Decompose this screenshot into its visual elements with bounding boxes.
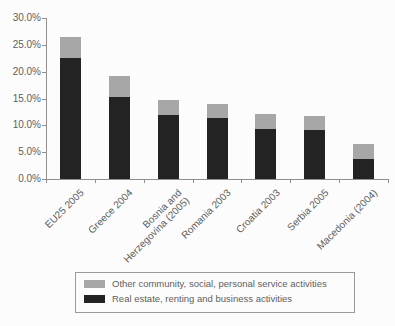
x-axis-tick [339, 179, 340, 183]
x-axis-tick [144, 179, 145, 183]
legend-label-other-community: Other community, social, personal servic… [112, 278, 327, 290]
legend-item-other-community: Other community, social, personal servic… [84, 278, 354, 290]
bar-segment-real-estate [207, 118, 228, 179]
x-axis-tick [290, 179, 291, 183]
x-axis-category-label: EU25 2005 [43, 187, 86, 230]
bar-segment-other-community [60, 37, 81, 58]
y-axis-line [46, 18, 47, 179]
y-axis-tick-label: 15.0% [0, 93, 41, 105]
bar-segment-other-community [109, 76, 130, 97]
bar-segment-real-estate [304, 130, 325, 179]
y-axis-tick-label: 0.0% [0, 173, 41, 185]
bar-segment-real-estate [158, 115, 179, 179]
legend-swatch-other-community-icon [84, 280, 105, 288]
x-axis-tick [388, 179, 389, 183]
x-axis-line [46, 179, 389, 180]
bar-segment-other-community [255, 114, 276, 129]
x-axis-tick [193, 179, 194, 183]
x-axis-category-label: Serbia 2005 [285, 187, 331, 233]
x-axis-category-label: Romania 2003 [179, 187, 233, 241]
y-axis-tick-label: 10.0% [0, 119, 41, 131]
x-axis-tick [241, 179, 242, 183]
bar-segment-other-community [304, 116, 325, 130]
bar-segment-real-estate [353, 159, 374, 179]
legend-item-real-estate: Real estate, renting and business activi… [84, 293, 354, 305]
stacked-bar-chart-figure: 0.0%5.0%10.0%15.0%20.0%25.0%30.0%EU25 20… [0, 0, 395, 326]
x-axis-category-label: Greece 2004 [86, 187, 135, 236]
legend: Other community, social, personal servic… [75, 272, 355, 313]
bar-segment-other-community [353, 144, 374, 159]
bar-segment-other-community [158, 100, 179, 115]
y-axis-tick-label: 5.0% [0, 146, 41, 158]
bar-segment-real-estate [60, 58, 81, 179]
x-axis-tick [95, 179, 96, 183]
y-axis-tick-label: 20.0% [0, 66, 41, 78]
legend-swatch-real-estate-icon [84, 295, 105, 303]
x-axis-category-label: Croatia 2003 [233, 187, 281, 235]
y-axis-tick-label: 25.0% [0, 39, 41, 51]
legend-label-real-estate: Real estate, renting and business activi… [112, 293, 292, 305]
bar-segment-real-estate [255, 129, 276, 179]
y-axis-tick-label: 30.0% [0, 12, 41, 24]
x-axis-tick [46, 179, 47, 183]
bar-segment-real-estate [109, 97, 130, 179]
bar-segment-other-community [207, 104, 228, 118]
